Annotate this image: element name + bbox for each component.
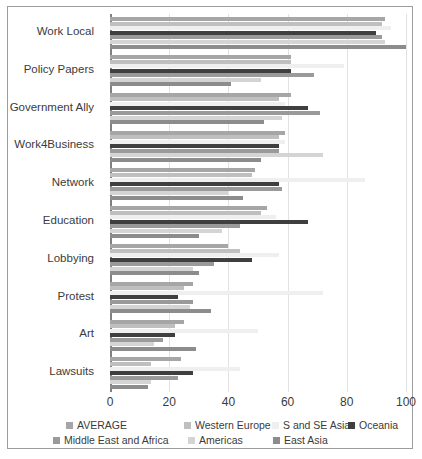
bar-group	[110, 55, 406, 86]
value-axis-labels: 020406080100	[8, 395, 412, 417]
bar-group	[110, 17, 406, 48]
legend-swatch-icon	[66, 422, 73, 429]
bar	[110, 309, 211, 313]
bar	[110, 73, 314, 77]
bar	[110, 140, 285, 144]
legend-label: Americas	[199, 434, 243, 446]
x-tick-label: 20	[163, 395, 176, 409]
category-label: Protest	[58, 291, 94, 303]
legend-label: Middle East and Africa	[64, 434, 168, 446]
bar	[110, 40, 385, 44]
bar	[110, 64, 344, 68]
category-axis: Work LocalPolicy PapersGovernment AllyWo…	[8, 14, 100, 392]
bar	[110, 333, 175, 337]
bar	[110, 258, 252, 262]
bar	[110, 173, 252, 177]
bar	[110, 249, 240, 253]
category-label: Government Ally	[10, 102, 94, 114]
x-tick-label: 60	[281, 395, 294, 409]
legend-label: Western Europe	[195, 419, 271, 431]
bar	[110, 244, 228, 248]
bars-region	[110, 14, 406, 392]
legend-label: East Asia	[284, 434, 328, 446]
x-tick-label: 40	[222, 395, 235, 409]
category-label: Art	[79, 328, 94, 340]
bar	[110, 78, 261, 82]
bar	[110, 116, 282, 120]
bar	[110, 149, 279, 153]
bar	[110, 371, 193, 375]
bar	[110, 178, 365, 182]
bar	[110, 380, 151, 384]
legend-label: AVERAGE	[77, 419, 127, 431]
bar	[110, 295, 178, 299]
legend-item[interactable]: AVERAGE	[66, 419, 127, 431]
bar	[110, 45, 406, 49]
bar	[110, 168, 255, 172]
bar	[110, 300, 193, 304]
legend-item[interactable]: Oceania	[348, 419, 398, 431]
bar	[110, 224, 240, 228]
legend-item[interactable]: Western Europe	[184, 419, 271, 431]
bar	[110, 234, 199, 238]
bar	[110, 282, 193, 286]
category-label: Policy Papers	[24, 64, 94, 76]
bar	[110, 342, 154, 346]
bar	[110, 211, 261, 215]
bar	[110, 271, 199, 275]
bar	[110, 26, 391, 30]
legend-item[interactable]: East Asia	[273, 434, 328, 446]
bar	[110, 102, 285, 106]
bar	[110, 97, 279, 101]
bar	[110, 144, 279, 148]
bar	[110, 220, 308, 224]
category-label: Lobbying	[47, 253, 94, 265]
x-tick-label: 0	[107, 395, 114, 409]
bar	[110, 206, 267, 210]
bar	[110, 385, 148, 389]
bar	[110, 158, 261, 162]
x-tick-label: 80	[340, 395, 353, 409]
bar	[110, 135, 279, 139]
bar	[110, 215, 276, 219]
category-label: Work4Business	[14, 139, 94, 151]
bar	[110, 120, 264, 124]
legend-item[interactable]: S and SE Asia	[272, 419, 350, 431]
bar	[110, 347, 196, 351]
bar-group	[110, 244, 406, 275]
bar	[110, 305, 190, 309]
bar	[110, 320, 184, 324]
bar	[110, 291, 323, 295]
legend-swatch-icon	[273, 437, 280, 444]
bar	[110, 253, 279, 257]
legend-item[interactable]: Middle East and Africa	[53, 434, 168, 446]
category-label: Work Local	[37, 26, 94, 38]
bar	[110, 153, 323, 157]
legend-swatch-icon	[53, 437, 60, 444]
bar	[110, 60, 291, 64]
bar	[110, 286, 184, 290]
gridline	[406, 14, 407, 392]
bar	[110, 362, 151, 366]
legend-item[interactable]: Americas	[188, 434, 243, 446]
bar	[110, 262, 214, 266]
chart-frame: Work LocalPolicy PapersGovernment AllyWo…	[7, 6, 413, 449]
bar	[110, 367, 240, 371]
legend-label: Oceania	[359, 419, 398, 431]
bar	[110, 267, 193, 271]
x-tick-label: 100	[396, 395, 416, 409]
bar-group	[110, 131, 406, 162]
category-label: Education	[43, 215, 94, 227]
bar	[110, 357, 181, 361]
legend-swatch-icon	[272, 422, 279, 429]
bar	[110, 82, 231, 86]
chart-legend: AVERAGEWestern EuropeS and SE AsiaOceani…	[8, 419, 412, 449]
bar	[110, 69, 291, 73]
bar	[110, 93, 291, 97]
legend-label: S and SE Asia	[283, 419, 350, 431]
bar-group	[110, 168, 406, 199]
bar	[110, 187, 282, 191]
legend-swatch-icon	[348, 422, 355, 429]
bar	[110, 376, 178, 380]
bar	[110, 196, 243, 200]
